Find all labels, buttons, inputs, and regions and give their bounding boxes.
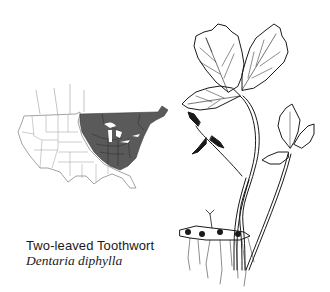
leaflet-top-right	[242, 24, 288, 90]
range-map	[12, 84, 168, 194]
bud-upper	[188, 112, 200, 126]
species-caption: Two-leaved Toothwort Dentaria diphylla	[26, 238, 154, 268]
plant-illustration	[176, 8, 326, 288]
scientific-name: Dentaria diphylla	[26, 253, 154, 268]
leaflet-right-lower	[262, 152, 288, 164]
bud-lower	[192, 138, 206, 154]
common-name: Two-leaved Toothwort	[26, 238, 154, 253]
bud-right	[210, 136, 224, 148]
leaflet-right-upper	[278, 104, 300, 148]
leaflet-right-side	[294, 124, 314, 148]
leaflet-top-left	[194, 24, 244, 92]
